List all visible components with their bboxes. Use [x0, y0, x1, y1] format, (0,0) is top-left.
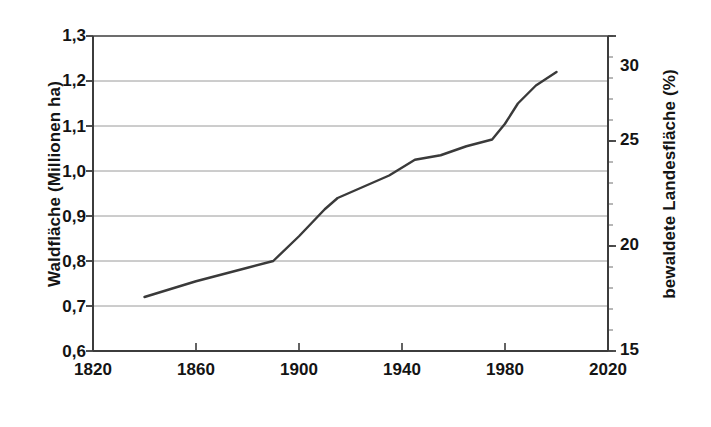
major-ticks-left [86, 36, 93, 351]
x-axis-major-ticks [93, 343, 608, 351]
data-series-line [145, 72, 557, 297]
chart-figure: Waldfläche (Millionen ha) bewaldete Land… [0, 0, 711, 427]
major-ticks-right [608, 36, 616, 351]
plot-area [0, 0, 711, 427]
